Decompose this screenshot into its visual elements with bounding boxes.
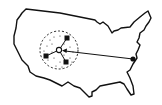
- spoke-node-northeast: [65, 36, 70, 41]
- us-map-illustration: United States distribution network: [0, 0, 162, 105]
- hub-node: [56, 47, 61, 52]
- origin-point: [130, 56, 135, 61]
- spoke-node-west: [44, 54, 49, 59]
- us-map-svg: [0, 0, 162, 105]
- spoke-node-southeast: [64, 60, 69, 65]
